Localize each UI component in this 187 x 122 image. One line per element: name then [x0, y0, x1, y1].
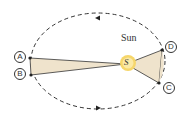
point-a-marker: [28, 56, 31, 59]
point-c-marker: [157, 81, 160, 84]
direction-arrow-top: [95, 16, 100, 21]
point-d-marker: [160, 48, 163, 51]
orbit-diagram: [0, 0, 187, 122]
label-b: B: [14, 68, 26, 80]
direction-arrow-bottom: [96, 106, 101, 111]
label-c: C: [163, 82, 175, 94]
label-d: D: [165, 41, 177, 53]
sun-symbol: S: [124, 57, 129, 67]
label-a: A: [14, 51, 26, 63]
sector-ab: [30, 58, 126, 75]
sun-label: Sun: [121, 32, 137, 43]
point-b-marker: [29, 73, 32, 76]
